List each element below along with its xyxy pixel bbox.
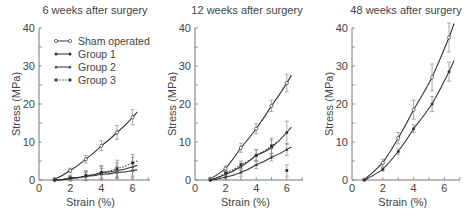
data-point (430, 76, 433, 79)
y-axis-label: Stress (MPa) (10, 72, 22, 136)
x-axis-label: Strain (%) (378, 196, 427, 208)
data-point (131, 116, 134, 119)
x-axis-label: Strain (%) (66, 196, 115, 208)
data-point (240, 163, 243, 166)
x-axis: 0246Strain (%) (192, 177, 303, 208)
x-tick-label: 2 (380, 182, 386, 194)
x-tick-label: 0 (192, 182, 198, 194)
x-axis: 0246Strain (%) (349, 177, 460, 208)
data-point (397, 150, 400, 153)
data-point (448, 70, 451, 73)
y-tick-label: 20 (23, 98, 35, 110)
y-tick-label: 20 (179, 98, 191, 110)
legend-label: Group 2 (78, 61, 116, 73)
data-point (397, 137, 400, 140)
data-point (116, 167, 119, 170)
data-point (131, 162, 134, 165)
x-axis: 0246Strain (%) (36, 177, 150, 208)
legend-label: Group 3 (78, 74, 116, 86)
x-tick-label: 6 (130, 182, 136, 194)
y-tick-label: 30 (336, 60, 348, 72)
y-tick-label: 40 (336, 22, 348, 34)
x-tick-label: 2 (67, 182, 73, 194)
y-tick-label: 10 (23, 136, 35, 148)
series-sham-operated (208, 74, 291, 180)
y-axis-label: Stress (MPa) (166, 72, 178, 136)
data-point (363, 179, 366, 182)
panel-title: 48 weeks after surgery (350, 4, 462, 16)
x-tick-label: 4 (253, 182, 259, 194)
data-point (285, 131, 288, 134)
chart-panel-3: 48 weeks after surgery010203040Stress (M… (323, 4, 462, 208)
data-point (100, 171, 103, 174)
data-point (412, 127, 415, 130)
x-tick-label: 4 (411, 182, 417, 194)
y-tick-label: 0 (185, 174, 191, 186)
legend: Sham operatedGroup 1Group 2Group 3 (54, 35, 150, 86)
data-point (270, 104, 273, 107)
fit-curve (364, 60, 454, 180)
data-point (53, 179, 56, 182)
data-point (447, 36, 450, 39)
series-group-3 (53, 155, 137, 182)
data-point (239, 146, 242, 149)
y-tick-label: 0 (342, 174, 348, 186)
data-point (84, 174, 87, 177)
data-point (412, 108, 415, 111)
y-tick-label: 30 (23, 60, 35, 72)
data-point (69, 177, 72, 180)
data-point (224, 167, 227, 170)
y-tick-label: 40 (23, 22, 35, 34)
y-tick-label: 10 (336, 136, 348, 148)
y-axis: 010203040Stress (MPa) (10, 22, 42, 186)
figure: 6 weeks after surgery010203040Stress (MP… (0, 0, 472, 214)
x-tick-label: 6 (284, 182, 290, 194)
data-point (381, 168, 384, 171)
x-tick-label: 0 (349, 182, 355, 194)
data-point (285, 169, 288, 172)
data-point (285, 82, 288, 85)
x-tick-label: 4 (98, 182, 104, 194)
data-point (84, 158, 87, 161)
data-point (381, 161, 384, 164)
fit-curve (210, 75, 291, 179)
fit-curve (210, 142, 276, 180)
panel-title: 12 weeks after surgery (191, 4, 303, 16)
legend-label: Sham operated (78, 35, 150, 47)
chart-panel-2: 12 weeks after surgery010203040Stress (M… (166, 4, 303, 208)
data-point (431, 103, 434, 106)
y-tick-label: 10 (179, 136, 191, 148)
data-point (100, 144, 103, 147)
data-point (69, 169, 72, 172)
data-point (270, 144, 273, 147)
y-axis-label: Stress (MPa) (323, 72, 335, 136)
data-point (209, 179, 212, 182)
series-sham-operated (362, 23, 454, 181)
series-group-3 (209, 138, 289, 181)
chart-panel-1: 6 weeks after surgery010203040Stress (MP… (10, 4, 150, 208)
series-group-1 (363, 60, 454, 181)
y-axis: 010203040Stress (MPa) (323, 22, 355, 186)
data-point (255, 127, 258, 130)
y-tick-label: 0 (29, 174, 35, 186)
panel-title: 6 weeks after surgery (42, 4, 148, 16)
series-sham-operated (53, 110, 138, 181)
series-group-2 (209, 144, 292, 181)
data-point (255, 154, 258, 157)
x-tick-label: 0 (36, 182, 42, 194)
y-tick-label: 30 (179, 60, 191, 72)
x-axis-label: Strain (%) (221, 196, 270, 208)
series-group-2 (53, 157, 137, 181)
data-point (224, 172, 227, 175)
fit-curve (55, 161, 138, 180)
data-point (115, 131, 118, 134)
fit-curve (364, 24, 454, 180)
x-tick-label: 2 (223, 182, 229, 194)
y-tick-label: 20 (336, 98, 348, 110)
y-tick-label: 40 (179, 22, 191, 34)
y-axis: 010203040Stress (MPa) (166, 22, 198, 186)
legend-label: Group 1 (78, 48, 116, 60)
x-tick-label: 6 (441, 182, 447, 194)
